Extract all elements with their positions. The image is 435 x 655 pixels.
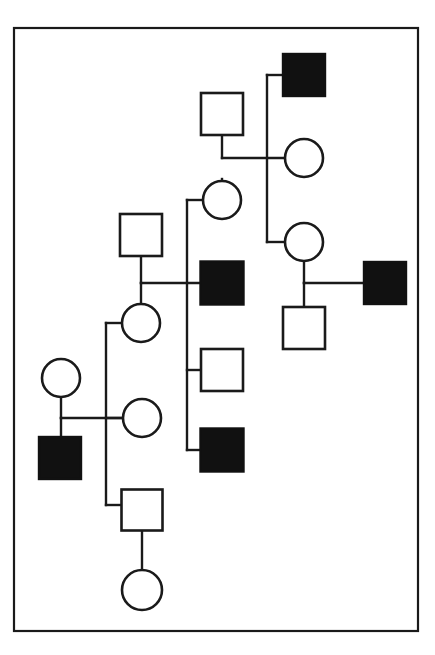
symbol-male-unaffected-m-right-child xyxy=(283,307,325,349)
symbol-male-unaffected-m-bottom-center xyxy=(122,490,163,531)
symbol-male-affected-m-center-affected-lower xyxy=(201,429,244,472)
symbol-female-unaffected-f-gen3-right xyxy=(285,223,323,261)
symbol-female-unaffected-f-gen3-left xyxy=(122,304,160,342)
symbol-female-unaffected-f-gen4-far-left xyxy=(42,359,80,397)
symbol-male-unaffected-m-gen2-left xyxy=(120,214,162,256)
symbol-male-affected-m-right-affected xyxy=(364,262,406,304)
symbol-female-unaffected-f-bottom-proband xyxy=(122,570,162,610)
symbol-male-unaffected-m-gen1-left xyxy=(201,93,243,135)
pedigree-figure xyxy=(0,0,435,655)
symbol-male-unaffected-m-center-open xyxy=(201,349,243,391)
symbol-male-affected-m-center-affected-upper xyxy=(201,262,244,305)
symbol-male-affected-m-bottom-left-affected xyxy=(39,437,81,479)
pedigree-canvas xyxy=(0,0,435,655)
symbol-male-affected-m-top-right xyxy=(283,54,325,96)
symbol-female-unaffected-f-gen4-left xyxy=(123,399,161,437)
symbol-female-unaffected-f-gen2-center xyxy=(203,181,241,219)
symbol-female-unaffected-f-gen2-upper-right xyxy=(285,139,323,177)
